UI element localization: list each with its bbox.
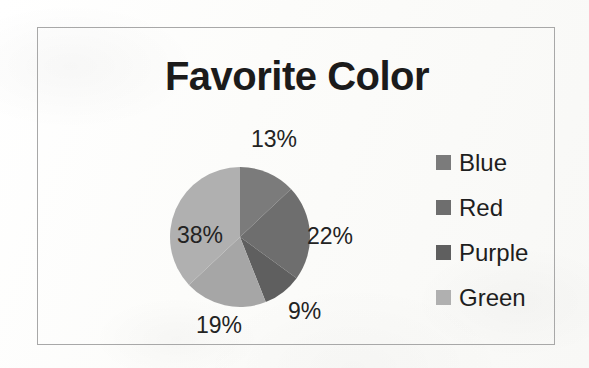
pie-label-green-left: 38%: [177, 224, 223, 247]
pie-label-blue: 13%: [251, 128, 297, 151]
legend-swatch-purple-icon: [436, 245, 451, 260]
pie-label-red: 22%: [307, 225, 353, 248]
legend-label-purple: Purple: [459, 241, 528, 265]
legend-label-green: Green: [459, 286, 526, 310]
chart-legend: Blue Red Purple Green: [436, 140, 554, 320]
legend-swatch-blue-icon: [436, 155, 451, 170]
pie-label-purple: 9%: [288, 300, 321, 323]
chart-frame: Favorite Color 13% 22% 9% 19% 38% Blue R…: [37, 27, 555, 345]
legend-item-purple[interactable]: Purple: [436, 230, 554, 275]
legend-swatch-red-icon: [436, 200, 451, 215]
legend-label-red: Red: [459, 196, 503, 220]
legend-swatch-green-icon: [436, 290, 451, 305]
legend-item-green[interactable]: Green: [436, 275, 554, 320]
legend-item-blue[interactable]: Blue: [436, 140, 554, 185]
legend-item-red[interactable]: Red: [436, 185, 554, 230]
pie-label-green-lower: 19%: [196, 314, 242, 337]
legend-label-blue: Blue: [459, 151, 507, 175]
plot-area: 13% 22% 9% 19% 38% Blue Red Purple Green: [38, 28, 556, 346]
